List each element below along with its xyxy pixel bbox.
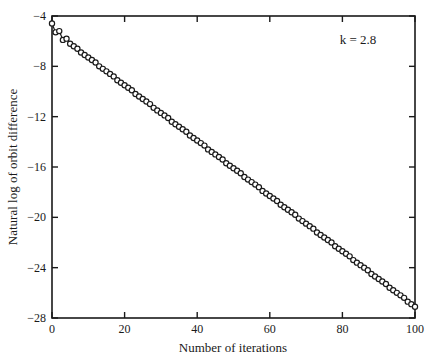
k-annotation: k = 2.8	[340, 32, 377, 47]
y-tick-label: −16	[27, 160, 46, 174]
x-tick-label: 100	[406, 322, 424, 336]
data-point	[64, 36, 69, 41]
y-tick-label: −20	[27, 210, 46, 224]
x-tick-label: 0	[49, 322, 55, 336]
y-tick-label: −4	[33, 9, 46, 23]
x-axis-title: Number of iterations	[179, 340, 287, 355]
x-tick-label: 80	[336, 322, 348, 336]
chart: 020406080100 −4−8−12−16−20−24−28 Number …	[0, 0, 432, 362]
x-tick-label: 60	[264, 322, 276, 336]
y-tick-label: −12	[27, 110, 46, 124]
x-tick-label: 20	[119, 322, 131, 336]
data-point	[412, 304, 417, 309]
x-tick-label: 40	[191, 322, 203, 336]
y-tick-label: −8	[33, 59, 46, 73]
data-point	[49, 21, 54, 26]
data-point	[57, 29, 62, 34]
data-series	[49, 21, 417, 309]
y-tick-label: −24	[27, 261, 46, 275]
x-axis-ticks: 020406080100	[49, 16, 424, 336]
y-tick-label: −28	[27, 311, 46, 325]
y-axis-title: Natural log of orbit difference	[5, 89, 20, 246]
